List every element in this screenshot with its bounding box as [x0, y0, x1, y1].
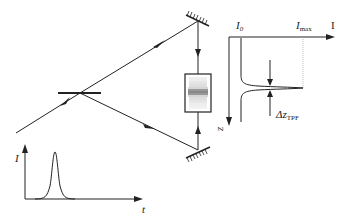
arrow-up-icon: [267, 90, 273, 97]
delta-z-tpf-label: ΔzTPF: [275, 108, 299, 122]
tpf-diagram: I t I0 Imax I z ΔzTPF: [0, 0, 351, 221]
i0-label: I0: [235, 19, 244, 33]
arrow-right-icon: [326, 34, 335, 40]
pulse-curve: [35, 152, 75, 199]
arrow-icon: [60, 97, 70, 106]
pulse-inset: I t: [14, 144, 146, 215]
arrow-icon: [153, 40, 165, 48]
sample-cell: [185, 74, 211, 112]
lower-beam: [80, 93, 198, 150]
arrow-down-icon: [267, 79, 273, 86]
arrow-up-icon: [22, 144, 28, 153]
imax-label: Imax: [295, 19, 312, 33]
profile-plot: I0 Imax I z ΔzTPF: [213, 19, 335, 132]
input-beam: [16, 93, 80, 133]
pulse-y-label: I: [14, 152, 20, 164]
upper-beam: [80, 21, 198, 93]
intensity-axis-label: I: [331, 19, 335, 31]
z-axis-label: z: [213, 126, 225, 132]
arrow-down-icon: [195, 49, 201, 57]
arrow-up-icon: [195, 126, 201, 134]
pulse-x-label: t: [142, 203, 146, 215]
arrow-down-icon: [226, 117, 232, 126]
arrow-right-icon: [134, 196, 143, 202]
